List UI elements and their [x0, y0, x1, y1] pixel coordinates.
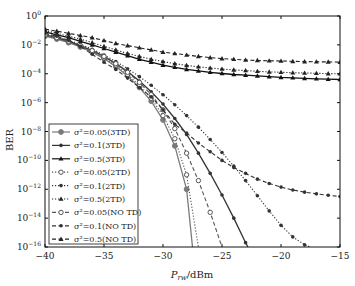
- open-circle-marker-icon: [196, 178, 200, 182]
- filled-circle-small-marker-icon: [267, 209, 271, 213]
- filled-triangle-marker-icon: [113, 41, 118, 45]
- legend-label: σ²=0.1(3TD): [74, 141, 125, 150]
- filled-triangle-marker-icon: [113, 47, 118, 51]
- filled-circle-small-marker-icon: [79, 45, 83, 49]
- filled-circle-small-marker-icon: [244, 241, 248, 245]
- legend-label: σ²=0.5(NO TD): [74, 235, 136, 244]
- filled-circle-small-marker-icon: [59, 224, 63, 228]
- y-tick-label: 10−6: [21, 96, 41, 108]
- open-circle-marker-icon: [125, 70, 129, 74]
- filled-circle-marker-icon: [172, 144, 177, 149]
- filled-triangle-marker-icon: [255, 69, 260, 73]
- filled-triangle-marker-icon: [208, 65, 213, 69]
- filled-circle-small-marker-icon: [59, 144, 63, 148]
- filled-circle-small-marker-icon: [267, 182, 271, 186]
- y-tick-label: 10−8: [21, 125, 41, 137]
- legend-label: σ²=0.1(2TD): [74, 182, 125, 191]
- filled-circle-small-marker-icon: [303, 190, 307, 194]
- filled-circle-small-marker-icon: [173, 103, 177, 107]
- filled-circle-small-marker-icon: [208, 150, 212, 154]
- filled-triangle-marker-icon: [243, 68, 248, 72]
- filled-triangle-marker-icon: [279, 70, 284, 74]
- y-tick-label: 10−2: [21, 38, 41, 50]
- y-tick-label: 10−10: [17, 153, 41, 165]
- filled-circle-small-marker-icon: [220, 151, 224, 155]
- ber-chart: −40−35−30−25−20−1510010−210−410−610−810−…: [0, 0, 355, 286]
- filled-triangle-marker-icon: [231, 67, 236, 71]
- filled-triangle-marker-icon: [102, 38, 107, 42]
- filled-circle-small-marker-icon: [291, 235, 295, 239]
- filled-circle-small-marker-icon: [208, 138, 212, 142]
- legend-label: σ²=0.5(2TD): [74, 195, 125, 204]
- filled-triangle-marker-icon: [302, 70, 307, 74]
- filled-circle-small-marker-icon: [315, 192, 319, 196]
- filled-circle-small-marker-icon: [55, 34, 59, 38]
- open-circle-marker-icon: [137, 80, 141, 84]
- filled-triangle-marker-icon: [290, 70, 295, 74]
- open-circle-marker-icon: [173, 126, 177, 130]
- filled-triangle-marker-icon: [125, 43, 130, 47]
- x-tick-label: −20: [272, 251, 291, 261]
- filled-circle-small-marker-icon: [161, 108, 165, 112]
- y-tick-label: 10−4: [21, 67, 41, 79]
- filled-circle-small-marker-icon: [59, 184, 63, 188]
- filled-triangle-marker-icon: [102, 44, 107, 48]
- filled-circle-small-marker-icon: [326, 194, 330, 198]
- filled-circle-small-marker-icon: [161, 93, 165, 97]
- open-circle-marker-icon: [59, 210, 63, 214]
- filled-circle-small-marker-icon: [279, 224, 283, 228]
- filled-circle-small-marker-icon: [303, 243, 307, 247]
- y-axis-label: BER: [4, 128, 15, 151]
- filled-triangle-marker-icon: [90, 40, 95, 44]
- filled-circle-small-marker-icon: [232, 216, 236, 220]
- filled-circle-marker-icon: [59, 130, 64, 135]
- series-line: [43, 26, 343, 64]
- filled-circle-small-marker-icon: [197, 151, 201, 155]
- filled-circle-small-marker-icon: [138, 86, 142, 90]
- filled-circle-small-marker-icon: [244, 179, 248, 183]
- filled-circle-small-marker-icon: [197, 141, 201, 145]
- filled-circle-small-marker-icon: [149, 84, 153, 88]
- filled-circle-small-marker-icon: [173, 122, 177, 126]
- filled-triangle-marker-icon: [196, 54, 201, 58]
- filled-circle-small-marker-icon: [220, 159, 224, 163]
- filled-circle-small-marker-icon: [102, 60, 106, 64]
- open-circle-marker-icon: [161, 113, 165, 117]
- filled-circle-small-marker-icon: [173, 117, 177, 121]
- open-circle-marker-icon: [59, 170, 63, 174]
- open-circle-marker-icon: [208, 210, 212, 214]
- legend-label: σ²=0.05(3TD): [74, 128, 130, 137]
- x-axis-label: Prw/dBm: [170, 269, 214, 282]
- open-circle-marker-icon: [184, 173, 188, 177]
- filled-circle-small-marker-icon: [208, 172, 212, 176]
- open-circle-marker-icon: [90, 48, 94, 52]
- x-tick-label: −15: [331, 251, 350, 261]
- filled-circle-small-marker-icon: [279, 185, 283, 189]
- filled-circle-small-marker-icon: [256, 177, 260, 181]
- filled-circle-small-marker-icon: [220, 193, 224, 197]
- filled-triangle-marker-icon: [184, 52, 189, 56]
- filled-circle-small-marker-icon: [197, 125, 201, 129]
- filled-triangle-marker-icon: [267, 69, 272, 73]
- open-circle-marker-icon: [102, 54, 106, 58]
- filled-circle-marker-icon: [184, 187, 189, 192]
- filled-circle-small-marker-icon: [161, 102, 165, 106]
- filled-circle-small-marker-icon: [149, 95, 153, 99]
- filled-circle-small-marker-icon: [256, 194, 260, 198]
- x-tick-label: −40: [36, 251, 55, 261]
- legend-label: σ²=0.05(NO TD): [74, 208, 141, 217]
- x-tick-label: −25: [213, 251, 232, 261]
- filled-circle-small-marker-icon: [185, 114, 189, 118]
- open-circle-marker-icon: [184, 151, 188, 155]
- y-tick-label: 10−12: [17, 182, 41, 194]
- y-tick-label: 10−14: [17, 211, 41, 223]
- filled-triangle-marker-icon: [314, 71, 319, 75]
- x-tick-label: −30: [154, 251, 173, 261]
- filled-circle-small-marker-icon: [232, 166, 236, 170]
- legend-label: σ²=0.05(2TD): [74, 168, 130, 177]
- filled-circle-small-marker-icon: [244, 172, 248, 176]
- filled-circle-small-marker-icon: [90, 52, 94, 56]
- open-circle-marker-icon: [114, 61, 118, 65]
- open-circle-marker-icon: [173, 137, 177, 141]
- filled-circle-small-marker-icon: [185, 131, 189, 135]
